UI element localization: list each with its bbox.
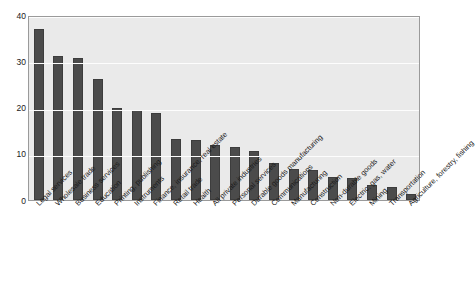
y-axis-tick-label: 30 bbox=[2, 58, 26, 67]
gridline bbox=[29, 110, 419, 111]
y-axis: 010203040 bbox=[0, 0, 26, 210]
gridline bbox=[29, 63, 419, 64]
y-axis-tick-label: 0 bbox=[2, 197, 26, 206]
gridline bbox=[29, 156, 419, 157]
gridline bbox=[29, 17, 419, 18]
y-axis-tick-label: 10 bbox=[2, 150, 26, 159]
y-axis-tick-label: 20 bbox=[2, 104, 26, 113]
y-axis-tick-label: 40 bbox=[2, 12, 26, 21]
x-axis-labels: Legal servicesWholesale tradeBusiness se… bbox=[28, 202, 428, 304]
chart-title bbox=[0, 0, 428, 6]
bar bbox=[34, 29, 44, 200]
